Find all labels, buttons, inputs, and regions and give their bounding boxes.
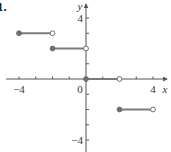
open-endpoint: [84, 46, 89, 51]
segment-2: [50, 46, 88, 51]
y-axis-label: y: [77, 0, 83, 12]
x-tick-label: 4: [150, 83, 156, 95]
x-axis-label: x: [162, 83, 168, 95]
open-endpoint: [117, 77, 122, 82]
open-endpoint: [50, 31, 55, 36]
segment-1: [17, 31, 55, 36]
x-tick-label: −4: [13, 83, 25, 95]
origin-label: 0: [77, 83, 83, 95]
closed-endpoint: [117, 107, 122, 112]
segment-4: [117, 107, 155, 112]
closed-endpoint: [84, 77, 89, 82]
step-function-graph: 1. −444−40xy: [0, 0, 171, 152]
closed-endpoint: [50, 46, 55, 51]
y-tick-label: 4: [78, 12, 84, 24]
tick-labels: −444−40xy: [13, 0, 167, 146]
open-endpoint: [151, 107, 156, 112]
problem-number: 1.: [0, 0, 7, 14]
y-tick-label: −4: [71, 134, 83, 146]
closed-endpoint: [17, 31, 22, 36]
